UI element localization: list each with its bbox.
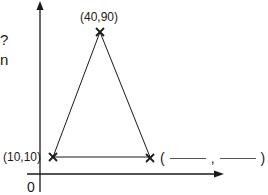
blank-y-coordinate [220,158,256,159]
cropped-text-fragment-1: ? [0,32,8,47]
open-paren: ( [160,150,165,166]
y-axis-arrowhead-icon [37,1,44,10]
vertex-label-bottom-right: (,) [160,151,265,165]
vertex-marker-top-icon [96,28,104,36]
triangle-side-left [53,32,100,157]
close-paren: ) [261,150,266,166]
vertex-label-bottom-left: (10,10) [3,151,41,163]
blank-x-coordinate [170,158,206,159]
comma-separator: , [211,150,215,166]
x-axis-arrowhead-icon [214,171,224,178]
origin-label: 0 [27,180,35,194]
vertex-marker-bottom-right-icon [146,154,154,162]
coordinate-diagram: ? n (40,90) (10,10) (,) 0 [0,0,268,195]
triangle-side-right [100,32,150,157]
cropped-text-fragment-2: n [0,52,8,67]
diagram-svg [0,0,268,195]
vertex-label-top: (40,90) [80,11,118,23]
